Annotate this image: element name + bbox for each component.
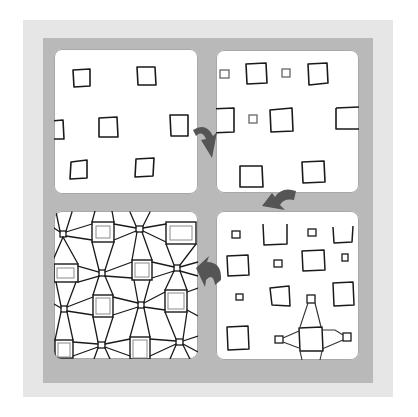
step-4-drawing bbox=[54, 211, 198, 359]
step-1-drawing bbox=[54, 49, 198, 194]
panel-step-4 bbox=[54, 211, 198, 359]
step-2-drawing bbox=[216, 50, 359, 193]
panel-step-3 bbox=[216, 211, 359, 360]
step-3-drawing bbox=[216, 211, 359, 360]
panel-step-2 bbox=[216, 50, 359, 193]
panel-step-1 bbox=[54, 49, 198, 194]
